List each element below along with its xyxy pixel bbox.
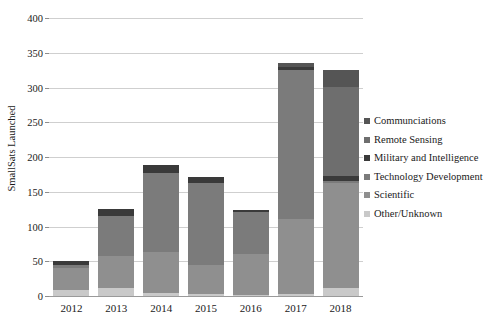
gridline-0 — [49, 296, 363, 297]
x-axis-label-2018: 2018 — [318, 302, 364, 314]
bar-segment-2013-technology-development[interactable] — [98, 216, 134, 256]
y-axis-title: SmallSats Launched — [4, 0, 18, 296]
bar-segment-2018-technology-development[interactable] — [323, 181, 359, 184]
legend-item-remote-sensing[interactable]: Remote Sensing — [364, 131, 490, 150]
legend-item-label: Military and Intelligence — [374, 153, 478, 164]
x-axis-label-2013: 2013 — [93, 302, 139, 314]
y-tick-label-0: 0 — [5, 291, 49, 302]
legend-item-military-and-intelligence[interactable]: Military and Intelligence — [364, 149, 490, 168]
legend-item-technology-development[interactable]: Technology Development — [364, 168, 490, 187]
bar-segment-2014-military-and-intelligence[interactable] — [143, 165, 179, 173]
legend-item-scientific[interactable]: Scientific — [364, 186, 490, 205]
bar-segment-2016-scientific[interactable] — [233, 254, 269, 294]
x-axis-label-2016: 2016 — [228, 302, 274, 314]
y-tick-label-300: 300 — [5, 82, 49, 93]
bar-segment-2013-military-and-intelligence[interactable] — [98, 209, 134, 216]
bar-segment-2017-other-unknown[interactable] — [278, 294, 314, 296]
legend-item-communciations[interactable]: Communciations — [364, 112, 490, 131]
bar-segment-2016-other-unknown[interactable] — [233, 295, 269, 296]
legend-swatch-icon — [364, 174, 370, 180]
bar-segment-2018-scientific[interactable] — [323, 183, 359, 287]
plot-area: 050100150200250300350400 201220132014201… — [49, 18, 363, 296]
bar-segment-2012-technology-development[interactable] — [53, 265, 89, 268]
bar-segment-2016-technology-development[interactable] — [233, 212, 269, 254]
y-tick-label-200: 200 — [5, 152, 49, 163]
bars-layer — [49, 18, 363, 296]
legend-item-label: Communciations — [374, 116, 446, 127]
bar-segment-2018-communciations[interactable] — [323, 70, 359, 87]
legend-item-label: Remote Sensing — [374, 135, 443, 146]
bar-segment-2012-military-and-intelligence[interactable] — [53, 261, 89, 266]
stacked-bar-chart: SmallSats Launched 050100150200250300350… — [0, 0, 490, 326]
bar-segment-2015-other-unknown[interactable] — [188, 294, 224, 296]
y-tick-label-100: 100 — [5, 221, 49, 232]
legend-item-other-unknown[interactable]: Other/Unknown — [364, 205, 490, 224]
bar-2017[interactable] — [278, 63, 314, 296]
bar-segment-2014-technology-development[interactable] — [143, 173, 179, 252]
bar-segment-2014-other-unknown[interactable] — [143, 293, 179, 296]
legend: CommunciationsRemote SensingMilitary and… — [364, 112, 490, 223]
legend-item-label: Scientific — [374, 190, 414, 201]
bar-segment-2018-other-unknown[interactable] — [323, 288, 359, 296]
bar-2015[interactable] — [188, 177, 224, 296]
x-axis-label-2014: 2014 — [138, 302, 184, 314]
legend-swatch-icon — [364, 155, 370, 161]
bar-segment-2017-technology-development[interactable] — [278, 70, 314, 219]
bar-segment-2013-other-unknown[interactable] — [98, 288, 134, 296]
bar-2014[interactable] — [143, 165, 179, 296]
y-tick-label-150: 150 — [5, 186, 49, 197]
y-tick-label-50: 50 — [5, 256, 49, 267]
bar-segment-2015-technology-development[interactable] — [188, 183, 224, 265]
legend-item-label: Other/Unknown — [374, 209, 442, 220]
bar-segment-2015-military-and-intelligence[interactable] — [188, 177, 224, 183]
x-axis-label-2017: 2017 — [273, 302, 319, 314]
bar-2018[interactable] — [323, 70, 359, 296]
y-tick-label-250: 250 — [5, 117, 49, 128]
bar-segment-2012-other-unknown[interactable] — [53, 290, 89, 296]
legend-swatch-icon — [364, 137, 370, 143]
bar-segment-2017-communciations[interactable] — [278, 63, 314, 67]
bar-segment-2012-scientific[interactable] — [53, 268, 89, 290]
legend-item-label: Technology Development — [374, 172, 483, 183]
bar-segment-2017-scientific[interactable] — [278, 219, 314, 294]
y-tick-label-400: 400 — [5, 13, 49, 24]
bar-segment-2018-military-and-intelligence[interactable] — [323, 176, 359, 181]
bar-segment-2014-scientific[interactable] — [143, 252, 179, 293]
bar-2012[interactable] — [53, 261, 89, 296]
y-tick-label-350: 350 — [5, 47, 49, 58]
bar-segment-2016-military-and-intelligence[interactable] — [233, 210, 269, 212]
bar-2013[interactable] — [98, 209, 134, 296]
legend-swatch-icon — [364, 211, 370, 217]
bar-segment-2017-military-and-intelligence[interactable] — [278, 67, 314, 70]
bar-2016[interactable] — [233, 210, 269, 296]
x-axis-label-2012: 2012 — [48, 302, 94, 314]
bar-segment-2018-remote-sensing[interactable] — [323, 87, 359, 176]
legend-swatch-icon — [364, 192, 370, 198]
bar-segment-2013-scientific[interactable] — [98, 256, 134, 287]
legend-swatch-icon — [364, 118, 370, 124]
x-axis-label-2015: 2015 — [183, 302, 229, 314]
bar-segment-2015-scientific[interactable] — [188, 265, 224, 293]
